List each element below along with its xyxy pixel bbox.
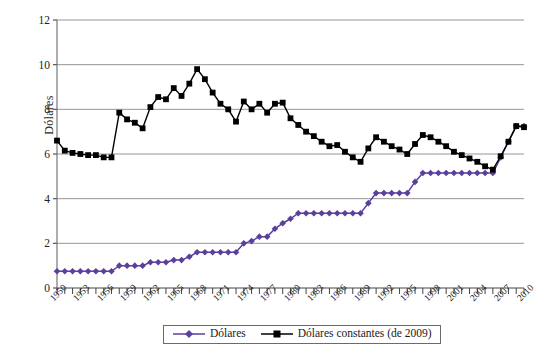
x-axis-tick-label: 1986 bbox=[328, 283, 349, 304]
legend-entry[interactable]: Dólares constantes (de 2009) bbox=[260, 328, 432, 340]
x-axis-tick-label: 1974 bbox=[235, 283, 256, 304]
x-axis-tick-label: 1959 bbox=[118, 283, 139, 304]
x-axis-tick-label: 1983 bbox=[305, 283, 326, 304]
legend-square-icon bbox=[260, 328, 294, 340]
x-axis-tick-label: 1998 bbox=[422, 283, 443, 304]
x-axis-tick-label: 1965 bbox=[165, 283, 186, 304]
legend-label: Dólares constantes (de 2009) bbox=[298, 328, 432, 340]
x-axis-tick-label: 1956 bbox=[95, 283, 116, 304]
x-axis-tick-label: 2004 bbox=[468, 283, 489, 304]
x-axis-tick-label: 1977 bbox=[258, 283, 279, 304]
x-axis-tick-label: 1968 bbox=[188, 283, 209, 304]
x-axis-tick-label: 1971 bbox=[211, 283, 232, 304]
x-axis-tick-label: 1950 bbox=[48, 283, 69, 304]
legend-label: Dólares bbox=[210, 328, 246, 340]
x-axis-tick-label: 1992 bbox=[375, 283, 396, 304]
x-axis-tick-label: 2007 bbox=[492, 283, 513, 304]
x-axis-tick-label: 1995 bbox=[398, 283, 419, 304]
x-axis-tick-label: 1989 bbox=[352, 283, 373, 304]
x-axis-tick-label: 1953 bbox=[71, 283, 92, 304]
chart-legend: DólaresDólares constantes (de 2009) bbox=[163, 325, 441, 344]
legend-diamond-icon bbox=[172, 328, 206, 340]
x-axis-tick-label: 1962 bbox=[141, 283, 162, 304]
x-axis-tick-label: 2010 bbox=[515, 283, 536, 304]
legend-entry[interactable]: Dólares bbox=[172, 328, 246, 340]
x-axis-tick-label: 1980 bbox=[282, 283, 303, 304]
x-axis-tick-label: 2001 bbox=[445, 283, 466, 304]
